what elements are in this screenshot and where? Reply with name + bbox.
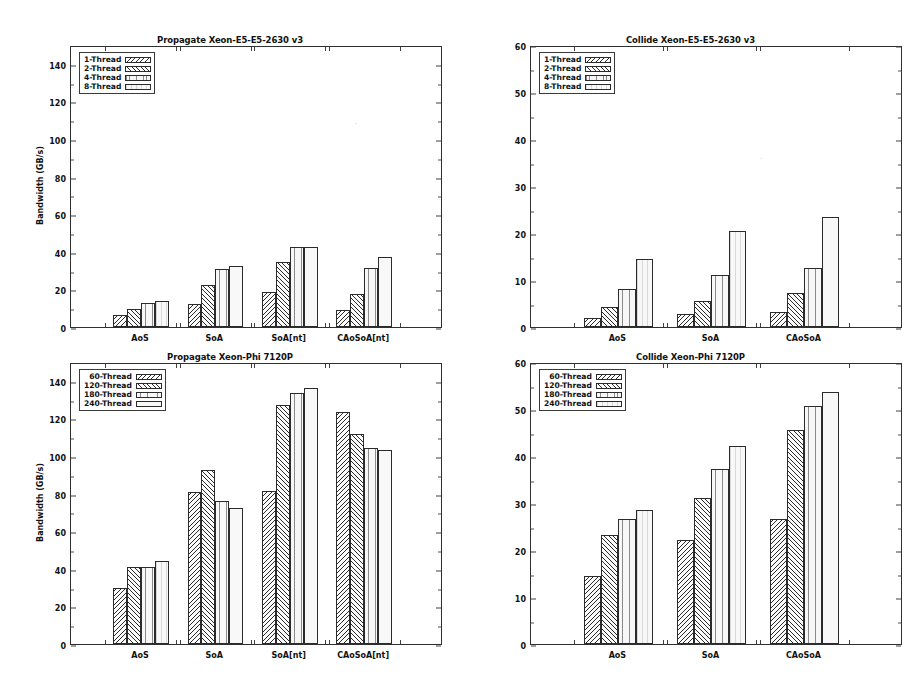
y-axis-minor-tick bbox=[71, 589, 74, 590]
legend-item-label: 120-Thread bbox=[84, 381, 132, 390]
legend-swatch bbox=[585, 66, 611, 72]
y-axis-minor-tick bbox=[898, 387, 901, 388]
legend-swatch bbox=[136, 374, 162, 380]
x-axis-category-label: SoA bbox=[702, 334, 719, 343]
y-axis-tick-mark bbox=[531, 141, 536, 142]
bar bbox=[770, 312, 787, 327]
bar bbox=[141, 567, 155, 644]
y-axis-tick-mark bbox=[896, 141, 901, 142]
y-axis-minor-tick bbox=[71, 122, 74, 123]
legend-item: 4-Thread bbox=[544, 73, 611, 82]
legend-item: 1-Thread bbox=[544, 55, 611, 64]
legend-swatch bbox=[596, 392, 622, 398]
x-axis-tick-mark bbox=[756, 47, 757, 51]
legend-item-label: 240-Thread bbox=[84, 399, 132, 408]
y-axis-tick-mark bbox=[436, 570, 441, 571]
x-axis-category-label: SoA bbox=[206, 334, 223, 343]
y-axis-tick-label: 60 bbox=[55, 529, 66, 538]
bar bbox=[229, 266, 243, 327]
legend-swatch bbox=[125, 75, 151, 81]
y-axis-minor-tick bbox=[531, 622, 534, 623]
y-axis-tick-mark bbox=[436, 103, 441, 104]
y-axis-tick-label: 10 bbox=[515, 278, 526, 287]
bar bbox=[127, 309, 141, 327]
y-axis-minor-tick bbox=[438, 197, 441, 198]
y-axis-tick-label: 0 bbox=[520, 642, 526, 651]
y-axis-tick-mark bbox=[896, 505, 901, 506]
x-axis-tick-mark bbox=[756, 640, 757, 644]
y-axis-tick-mark bbox=[71, 646, 76, 647]
y-axis-minor-tick bbox=[438, 122, 441, 123]
bar bbox=[201, 285, 215, 327]
y-axis-tick-label: 0 bbox=[520, 325, 526, 334]
y-axis-minor-tick bbox=[898, 528, 901, 529]
legend-item-label: 120-Thread bbox=[544, 381, 592, 390]
bar bbox=[276, 262, 290, 327]
chart-legend: 1-Thread2-Thread4-Thread8-Thread bbox=[79, 52, 155, 94]
legend-item: 180-Thread bbox=[84, 390, 162, 399]
bar bbox=[350, 434, 364, 644]
chart-title: Propagate Xeon-E5-E5-2630 v3 bbox=[0, 35, 460, 45]
legend-swatch bbox=[596, 374, 622, 380]
bar bbox=[141, 303, 155, 327]
legend-item-label: 8-Thread bbox=[544, 82, 581, 91]
bar bbox=[694, 498, 711, 644]
y-axis-tick-mark bbox=[71, 178, 76, 179]
x-axis-category-label: SoA[nt] bbox=[272, 334, 306, 343]
y-axis-tick-label: 140 bbox=[49, 61, 66, 70]
bar bbox=[215, 501, 229, 644]
x-axis-tick-mark bbox=[254, 47, 255, 51]
y-axis-tick-mark bbox=[71, 458, 76, 459]
y-axis-tick-label: 0 bbox=[60, 325, 66, 334]
bar bbox=[304, 388, 318, 644]
x-axis-tick-mark bbox=[760, 323, 761, 327]
x-axis-category-label: AoS bbox=[131, 651, 148, 660]
bar bbox=[276, 405, 290, 644]
y-axis-tick-mark bbox=[436, 291, 441, 292]
chart-panel-collide-xeon-e5: Collide Xeon-E5-E5-2630 v3 Performance (… bbox=[460, 0, 921, 343]
bar bbox=[113, 315, 127, 327]
y-axis-minor-tick bbox=[898, 258, 901, 259]
x-axis-category-label: CAoSoA[nt] bbox=[337, 334, 389, 343]
y-axis-minor-tick bbox=[438, 439, 441, 440]
y-axis-tick-mark bbox=[531, 552, 536, 553]
y-axis-tick-mark bbox=[436, 420, 441, 421]
y-axis-minor-tick bbox=[71, 627, 74, 628]
y-axis-tick-mark bbox=[71, 420, 76, 421]
x-axis-tick-mark bbox=[663, 364, 664, 368]
bar bbox=[770, 519, 787, 644]
legend-item-label: 2-Thread bbox=[84, 64, 121, 73]
legend-swatch bbox=[136, 383, 162, 389]
y-axis-label: Bandwidth (GB/s) bbox=[36, 126, 45, 246]
x-axis-tick-mark bbox=[329, 47, 330, 51]
y-axis-tick-label: 20 bbox=[55, 604, 66, 613]
y-axis-minor-tick bbox=[898, 70, 901, 71]
y-axis-tick-mark bbox=[531, 235, 536, 236]
y-axis-tick-label: 50 bbox=[515, 407, 526, 416]
bar bbox=[215, 269, 229, 327]
y-axis-tick-mark bbox=[71, 65, 76, 66]
y-axis-minor-tick bbox=[438, 159, 441, 160]
bar bbox=[822, 217, 839, 327]
chart-title: Collide Xeon-E5-E5-2630 v3 bbox=[460, 35, 921, 45]
y-axis-minor-tick bbox=[438, 552, 441, 553]
y-axis-tick-label: 50 bbox=[515, 90, 526, 99]
y-axis-label: Bandwidth (GB/s) bbox=[36, 443, 45, 563]
x-axis-tick-mark bbox=[180, 640, 181, 644]
y-axis-tick-mark bbox=[71, 570, 76, 571]
bar bbox=[290, 247, 304, 327]
bar bbox=[304, 247, 318, 327]
bar bbox=[584, 318, 601, 327]
y-axis-minor-tick bbox=[898, 434, 901, 435]
y-axis-tick-mark bbox=[531, 411, 536, 412]
bar bbox=[711, 469, 728, 644]
y-axis-tick-mark bbox=[71, 103, 76, 104]
legend-item: 4-Thread bbox=[84, 73, 151, 82]
x-axis-tick-mark bbox=[329, 323, 330, 327]
bar bbox=[584, 576, 601, 644]
y-axis-minor-tick bbox=[438, 627, 441, 628]
legend-swatch bbox=[596, 401, 622, 407]
legend-item-label: 1-Thread bbox=[544, 55, 581, 64]
y-axis-tick-mark bbox=[531, 94, 536, 95]
bar bbox=[378, 257, 392, 327]
